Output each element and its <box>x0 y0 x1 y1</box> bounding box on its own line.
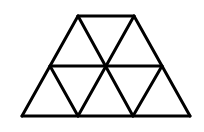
edge-line <box>50 66 78 116</box>
edges-group <box>22 16 190 116</box>
triangle-trapezoid-diagram <box>0 0 204 132</box>
edge-line <box>133 66 162 116</box>
